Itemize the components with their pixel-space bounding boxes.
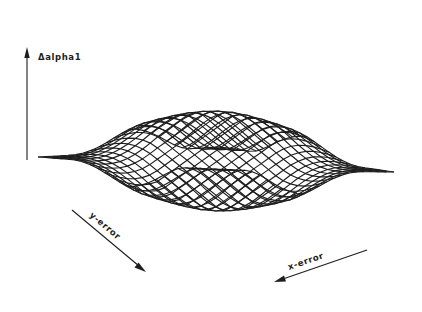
- z-axis-arrow-icon: [24, 47, 29, 58]
- x-axis-arrow-icon: [274, 276, 286, 283]
- mesh-line: [46, 157, 223, 191]
- z-axis-label: Δalpha1: [38, 52, 81, 62]
- z-axis: Δalpha1: [24, 47, 81, 160]
- x-axis: x-error: [274, 250, 367, 282]
- y-axis-label: y-error: [88, 210, 123, 242]
- mesh-line: [212, 132, 386, 172]
- wireframe-mesh: [38, 111, 394, 211]
- x-axis-label: x-error: [286, 250, 325, 272]
- y-axis: y-error: [72, 210, 146, 272]
- mesh-line: [144, 114, 319, 191]
- mesh-line: [45, 125, 227, 157]
- surface-plot: Δalpha1 y-error x-error: [0, 0, 422, 312]
